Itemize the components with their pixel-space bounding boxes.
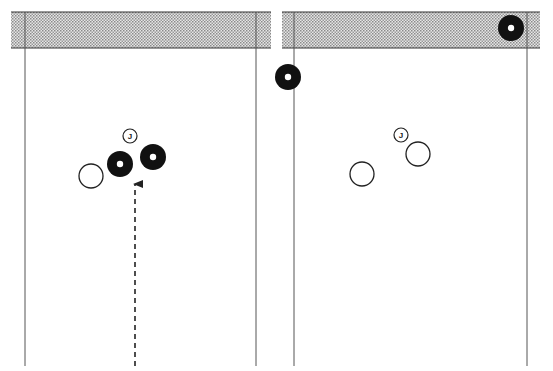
ditch-band <box>11 12 271 48</box>
bowl-white <box>79 164 103 188</box>
bowl-black-in-ditch <box>498 15 524 41</box>
rink-diagram: J J <box>0 0 553 371</box>
jack-label: J <box>128 132 132 141</box>
panel-after: J <box>275 12 540 366</box>
panel-before: J <box>11 12 271 366</box>
bowl-white <box>406 142 430 166</box>
bowl-black <box>107 151 133 177</box>
jack: J <box>123 129 137 143</box>
jack-label: J <box>399 131 403 140</box>
bowl-black <box>140 144 166 170</box>
jack: J <box>394 128 408 142</box>
bowl-black-on-boundary <box>275 64 301 90</box>
bowl-white <box>350 162 374 186</box>
